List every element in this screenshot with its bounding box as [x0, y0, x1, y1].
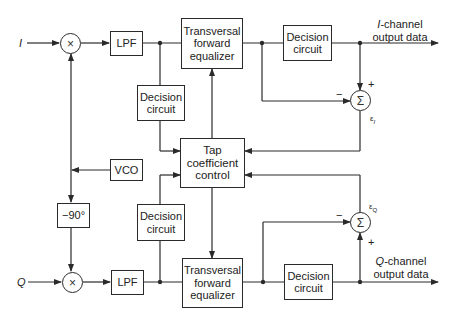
tap-line2: coefficient: [187, 157, 239, 169]
dec-tap-i-line2: circuit: [147, 103, 176, 115]
multiply-icon: ×: [69, 276, 76, 290]
q-channel-output-label: Q-channel output data: [367, 255, 435, 281]
dec-out-q-line2: circuit: [294, 282, 323, 294]
input-q-label: Q: [17, 276, 26, 288]
dec-tap-q-line1: Decision: [140, 210, 182, 222]
error-i-label: εI: [370, 113, 375, 128]
lpf-q: LPF: [111, 270, 144, 295]
decision-circuit-tap-q: Decisioncircuit: [137, 204, 185, 241]
eq-i-line2: forward: [194, 37, 231, 49]
tap-line3: control: [195, 169, 230, 181]
multiply-icon: ×: [67, 37, 74, 51]
eq-q-line3: equalizer: [190, 289, 235, 301]
eq-q-line2: forward: [194, 277, 231, 289]
lpf-i-label: LPF: [116, 37, 136, 50]
i-suffix: -channel: [380, 18, 422, 30]
lpf-i: LPF: [110, 31, 143, 56]
summer-q: Σ: [350, 212, 371, 233]
decision-circuit-tap-i: Decisioncircuit: [137, 85, 185, 121]
input-i-label: I: [19, 37, 22, 49]
mixer-q: ×: [62, 272, 83, 293]
q-suffix: -channel: [384, 255, 426, 267]
q-output-line2: output data: [373, 268, 428, 280]
minus-sign-i: −: [336, 88, 342, 100]
equalizer-i: Transversalforwardequalizer: [181, 18, 243, 69]
tap-line1: Tap: [203, 144, 222, 156]
dec-out-i-line1: Decision: [286, 31, 328, 43]
decision-circuit-out-q: Decisioncircuit: [284, 264, 333, 300]
mixer-i: ×: [60, 33, 81, 54]
plus-sign-i: +: [368, 78, 374, 90]
decision-circuit-out-i: Decisioncircuit: [283, 25, 332, 61]
dec-out-i-line2: circuit: [293, 43, 322, 55]
plus-sign-q: +: [368, 236, 374, 248]
sigma-icon: Σ: [357, 94, 364, 108]
epsilon-i-sub: I: [374, 119, 376, 125]
eq-i-line3: equalizer: [190, 50, 235, 62]
epsilon-q-sub: Q: [373, 207, 378, 213]
eq-i-line1: Transversal: [183, 25, 240, 37]
i-channel-output-label: I-channel output data: [366, 18, 434, 44]
error-q-label: εQ: [369, 201, 377, 216]
sigma-icon: Σ: [357, 216, 364, 230]
equalizer-q: Transversalforwardequalizer: [182, 258, 243, 308]
q-prefix: Q: [376, 255, 385, 267]
phase-shift-label: −90°: [62, 209, 85, 222]
i-output-line2: output data: [372, 31, 427, 43]
lpf-q-label: LPF: [117, 276, 137, 289]
vco-label: VCO: [115, 164, 139, 177]
eq-q-line1: Transversal: [184, 264, 241, 276]
tap-coefficient-control: Tapcoefficientcontrol: [180, 138, 245, 188]
summer-i: Σ: [350, 90, 371, 111]
vco: VCO: [110, 159, 143, 181]
minus-sign-q: −: [336, 209, 342, 221]
dec-tap-i-line1: Decision: [140, 91, 182, 103]
phase-shift-90: −90°: [57, 203, 90, 228]
dec-out-q-line1: Decision: [287, 270, 329, 282]
dec-tap-q-line2: circuit: [147, 223, 176, 235]
